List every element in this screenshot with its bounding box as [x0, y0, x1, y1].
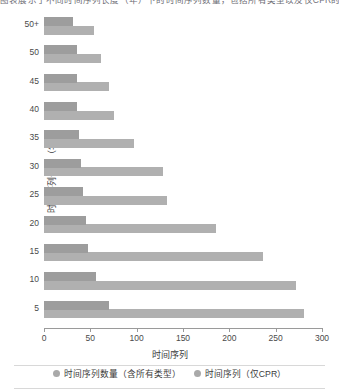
- x-tick-mark: [90, 328, 91, 332]
- bar-total[interactable]: [44, 167, 163, 176]
- chart-legend: 时间序列数量（含所有类型）时间序列（仅CPR）: [0, 367, 339, 380]
- bar-total[interactable]: [44, 281, 296, 290]
- chart-row: 40: [44, 101, 322, 129]
- bar-cpr[interactable]: [44, 17, 73, 26]
- plot-area: 时间序列长度（年） 510152025303540455050+: [44, 16, 322, 328]
- bar-cpr[interactable]: [44, 301, 109, 310]
- bar-total[interactable]: [44, 26, 94, 35]
- y-tick-label: 35: [30, 132, 39, 143]
- chart-row: 35: [44, 129, 322, 157]
- bar-total[interactable]: [44, 111, 114, 120]
- y-tick-label: 10: [30, 274, 39, 285]
- y-tick-label: 45: [30, 76, 39, 87]
- y-tick-label: 5: [34, 303, 39, 314]
- bar-cpr[interactable]: [44, 102, 77, 111]
- bar-cpr[interactable]: [44, 216, 86, 225]
- x-tick-mark: [183, 328, 184, 332]
- chart-row: 50: [44, 44, 322, 72]
- bar-cpr[interactable]: [44, 74, 77, 83]
- bar-cpr[interactable]: [44, 159, 81, 168]
- figure-caption: 图表展示了不同时间序列长度（年）下的时间序列数量，包括所有类型以及仅CPR的统计…: [0, 0, 339, 5]
- bar-cpr[interactable]: [44, 45, 77, 54]
- legend-item[interactable]: 时间序列数量（含所有类型）: [53, 367, 181, 380]
- x-tick-label: 300: [315, 333, 329, 343]
- bar-cpr[interactable]: [44, 130, 79, 139]
- legend-divider-bottom: [14, 388, 325, 389]
- x-tick-mark: [322, 328, 323, 332]
- x-tick-mark: [44, 328, 45, 332]
- bar-total[interactable]: [44, 224, 216, 233]
- y-tick-label: 50: [30, 47, 39, 58]
- y-tick-label: 20: [30, 218, 39, 229]
- legend-label: 时间序列（仅CPR）: [205, 367, 286, 380]
- x-tick-label: 200: [222, 333, 236, 343]
- bar-total[interactable]: [44, 252, 263, 261]
- y-tick-label: 15: [30, 246, 39, 257]
- chart-row: 30: [44, 158, 322, 186]
- chart-row: 25: [44, 186, 322, 214]
- chart-row: 10: [44, 271, 322, 299]
- chart-row: 5: [44, 300, 322, 328]
- x-tick-label: 50: [86, 333, 95, 343]
- legend-label: 时间序列数量（含所有类型）: [64, 367, 181, 380]
- bar-total[interactable]: [44, 54, 101, 63]
- y-tick-label: 40: [30, 104, 39, 115]
- y-tick-label: 25: [30, 189, 39, 200]
- bar-cpr[interactable]: [44, 272, 96, 281]
- chart-row: 50+: [44, 16, 322, 44]
- bar-cpr[interactable]: [44, 244, 88, 253]
- circle-marker-icon: [53, 370, 60, 377]
- x-tick-label: 250: [269, 333, 283, 343]
- x-tick-label: 100: [130, 333, 144, 343]
- legend-item[interactable]: 时间序列（仅CPR）: [194, 367, 286, 380]
- x-axis-title: 时间序列: [0, 348, 339, 361]
- x-tick-mark: [137, 328, 138, 332]
- bar-cpr[interactable]: [44, 187, 83, 196]
- x-tick-mark: [229, 328, 230, 332]
- chart-row: 15: [44, 243, 322, 271]
- chart-row: 20: [44, 215, 322, 243]
- bar-total[interactable]: [44, 82, 109, 91]
- chart-row: 45: [44, 73, 322, 101]
- x-tick-label: 150: [176, 333, 190, 343]
- x-tick-mark: [276, 328, 277, 332]
- y-tick-label: 50+: [25, 19, 39, 30]
- legend-divider-top: [14, 365, 325, 366]
- bar-total[interactable]: [44, 196, 167, 205]
- chart-figure: 图表展示了不同时间序列长度（年）下的时间序列数量，包括所有类型以及仅CPR的统计…: [0, 0, 339, 391]
- y-tick-label: 30: [30, 161, 39, 172]
- bar-total[interactable]: [44, 139, 134, 148]
- bar-total[interactable]: [44, 309, 304, 318]
- x-tick-label: 0: [42, 333, 47, 343]
- circle-marker-icon: [194, 370, 201, 377]
